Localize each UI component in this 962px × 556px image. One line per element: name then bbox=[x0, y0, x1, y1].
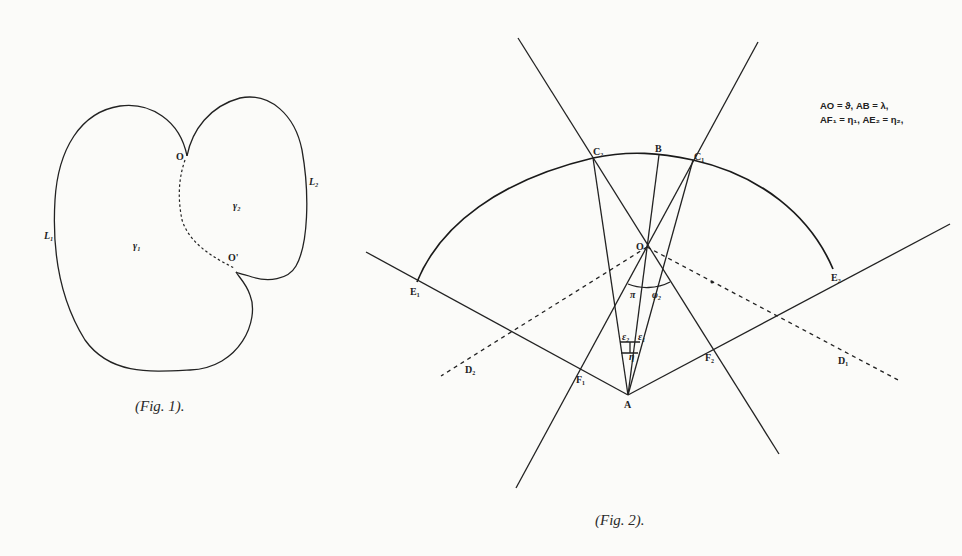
label-O: O bbox=[636, 241, 644, 252]
dashed-line-O-D1 bbox=[647, 247, 900, 381]
figure-2-legend: AO = ϑ, AB = λ, AF₁ = η₁, AE₂ = η₂, bbox=[820, 99, 903, 127]
label-angle-epsilon2: ε₂ bbox=[622, 331, 630, 342]
label-D2: D₂ bbox=[465, 364, 475, 375]
line-A-E1 bbox=[366, 252, 628, 395]
label-angle-phi2: φ₂ bbox=[652, 289, 661, 300]
marker-dot bbox=[711, 281, 714, 284]
label-E1: E₁ bbox=[410, 286, 420, 297]
label-B: B bbox=[655, 143, 662, 154]
line-A-C1 bbox=[628, 160, 693, 395]
label-A: A bbox=[624, 399, 632, 410]
label-C2: C₂ bbox=[593, 146, 603, 157]
angle-arc-O bbox=[628, 282, 670, 288]
figure-2-drawing: A B O C₁ C₂ E₁ E₂ F₁ F₂ D₁ D₂ π φ₂ ε₂ ε₁… bbox=[0, 0, 962, 556]
label-F2: F₂ bbox=[705, 352, 714, 363]
label-angle-eta: η bbox=[629, 351, 635, 362]
arc-E1-E2 bbox=[417, 153, 833, 282]
line-A-C2 bbox=[593, 158, 628, 395]
label-angle-epsilon1: ε₁ bbox=[638, 331, 646, 342]
label-C1: C₁ bbox=[694, 151, 704, 162]
legend-line-1: AO = ϑ, AB = λ, bbox=[820, 99, 903, 113]
line-C2-O-extended bbox=[518, 38, 779, 454]
label-E2: E₂ bbox=[831, 272, 841, 283]
legend-line-2: AF₁ = η₁, AE₂ = η₂, bbox=[820, 113, 903, 127]
label-F1: F₁ bbox=[576, 374, 585, 385]
line-C1-O-extended bbox=[516, 42, 758, 488]
label-D1: D₁ bbox=[838, 355, 848, 366]
figure-2-caption: (Fig. 2). bbox=[595, 512, 645, 529]
label-angle-pi: π bbox=[630, 289, 636, 300]
line-A-E2 bbox=[628, 224, 950, 395]
